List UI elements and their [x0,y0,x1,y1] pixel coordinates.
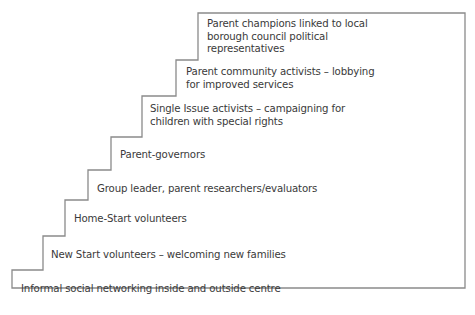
step-3-line-1: Home-Start volunteers [74,213,187,226]
step-3-label: Home-Start volunteers [74,213,187,226]
step-8-line-1: Parent champions linked to local [207,18,368,31]
step-5-line-1: Parent-governors [120,149,205,162]
step-1-line-1: Informal social networking inside and ou… [21,283,281,296]
step-4-label: Group leader, parent researchers/evaluat… [97,183,317,196]
step-8-line-2: borough council political [207,31,368,44]
step-6-line-1: Single Issue activists – campaigning for [150,103,345,116]
step-7-line-1: Parent community activists – lobbying [186,66,374,79]
step-6-line-2: children with special rights [150,116,345,129]
step-6-label: Single Issue activists – campaigning for… [150,103,345,128]
step-1-label: Informal social networking inside and ou… [21,283,281,296]
step-4-line-1: Group leader, parent researchers/evaluat… [97,183,317,196]
step-7-line-2: for improved services [186,79,374,92]
step-2-label: New Start volunteers – welcoming new fam… [51,249,286,262]
step-2-line-1: New Start volunteers – welcoming new fam… [51,249,286,262]
step-7-label: Parent community activists – lobbying fo… [186,66,374,91]
step-8-label: Parent champions linked to local borough… [207,18,368,56]
step-8-line-3: representatives [207,43,368,56]
step-5-label: Parent-governors [120,149,205,162]
